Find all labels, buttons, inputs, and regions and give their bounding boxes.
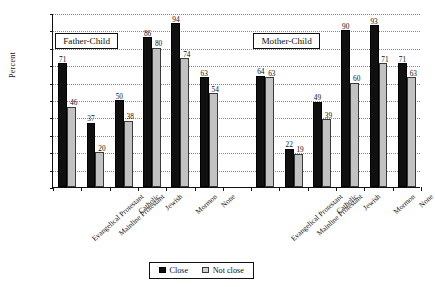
x-tick-mark <box>110 187 111 191</box>
bar-value-label: 50 <box>116 93 123 101</box>
gridline <box>53 14 420 15</box>
bar-group: 9060 <box>336 30 364 187</box>
x-tick-mark <box>195 187 196 191</box>
bar-close: 90 <box>341 30 350 187</box>
bar-group: 8680 <box>138 37 166 187</box>
legend-item-not-close: Not close <box>202 266 244 275</box>
panel-title-father-child: Father-Child <box>55 33 118 49</box>
bar-not-close: 74 <box>180 58 189 187</box>
bar-close: 64 <box>256 76 265 187</box>
bar-not-close: 80 <box>152 48 161 187</box>
x-axis-label: Mormon <box>391 192 416 216</box>
bar-value-label: 64 <box>257 68 264 76</box>
bar-group: 7146 <box>53 63 81 187</box>
bar-value-label: 63 <box>268 70 275 78</box>
bar-value-label: 90 <box>342 23 349 31</box>
bar-close: 71 <box>398 63 407 187</box>
x-tick-mark <box>336 187 337 191</box>
x-axis-label: None <box>417 192 435 209</box>
legend-item-close: Close <box>159 266 188 275</box>
x-tick-mark <box>53 187 54 191</box>
bar-close: 86 <box>143 37 152 187</box>
x-tick-mark <box>279 187 280 191</box>
bar-not-close: 46 <box>67 107 76 187</box>
x-tick-mark <box>251 187 252 191</box>
legend-swatch-not-close-icon <box>202 267 209 274</box>
x-tick-mark <box>364 187 365 191</box>
bar-not-close: 39 <box>322 119 331 187</box>
x-axis-label: None <box>219 192 237 209</box>
legend-label-not-close: Not close <box>213 266 244 275</box>
bar-not-close: 63 <box>407 77 416 187</box>
bar-value-label: 49 <box>314 94 321 102</box>
x-tick-mark <box>81 187 82 191</box>
bar-value-label: 74 <box>183 51 190 59</box>
bar-close: 71 <box>58 63 67 187</box>
bar-group: 2219 <box>279 149 307 187</box>
bar-value-label: 60 <box>353 75 360 83</box>
bar-not-close: 38 <box>124 121 133 187</box>
bar-value-label: 93 <box>370 18 377 26</box>
bar-not-close: 71 <box>379 63 388 187</box>
bar-value-label: 37 <box>87 115 94 123</box>
bar-value-label: 80 <box>155 40 162 48</box>
bar-value-label: 94 <box>172 16 179 24</box>
bar-not-close: 54 <box>209 93 218 187</box>
x-tick-mark <box>421 187 422 191</box>
bar-group: 6354 <box>195 77 223 187</box>
y-tick-mark <box>50 31 54 32</box>
legend-swatch-close-icon <box>159 267 166 274</box>
bar-value-label: 19 <box>296 146 303 154</box>
bar-not-close: 20 <box>95 152 104 187</box>
y-tick-mark <box>50 14 54 15</box>
bar-not-close: 60 <box>350 83 359 187</box>
x-axis-label: Jewish <box>362 192 383 212</box>
bar-close: 93 <box>370 25 379 187</box>
bar-value-label: 22 <box>285 141 292 149</box>
bar-group: 4939 <box>308 102 336 187</box>
bar-value-label: 71 <box>399 56 406 64</box>
bar-group: 9474 <box>166 23 194 187</box>
bar-value-label: 86 <box>144 30 151 38</box>
bar-value-label: 63 <box>201 70 208 78</box>
bar-close: 37 <box>87 123 96 187</box>
panel-title-mother-child: Mother-Child <box>253 33 319 49</box>
bar-value-label: 71 <box>59 56 66 64</box>
y-axis-label: Percent <box>8 52 17 78</box>
bar-value-label: 54 <box>212 86 219 94</box>
x-axis-label: Jewish <box>163 192 184 212</box>
x-tick-mark <box>308 187 309 191</box>
bar-group: 9371 <box>364 25 392 187</box>
bar-close: 63 <box>200 77 209 187</box>
x-tick-mark <box>223 187 224 191</box>
chart-legend: Close Not close <box>149 262 254 279</box>
bar-not-close: 63 <box>265 77 274 187</box>
x-tick-mark <box>138 187 139 191</box>
bar-value-label: 39 <box>325 112 332 120</box>
bar-group: 6463 <box>251 76 279 187</box>
bar-group: 5038 <box>110 100 138 187</box>
bar-not-close: 19 <box>294 154 303 187</box>
y-tick-mark <box>50 49 54 50</box>
bar-value-label: 46 <box>70 99 77 107</box>
bar-value-label: 63 <box>410 70 417 78</box>
bar-value-label: 20 <box>98 145 105 153</box>
x-tick-mark <box>166 187 167 191</box>
bar-close: 49 <box>313 102 322 187</box>
bar-value-label: 38 <box>127 113 134 121</box>
x-axis-label: Mormon <box>193 192 218 216</box>
legend-label-close: Close <box>170 266 189 275</box>
bar-group: 3720 <box>81 123 109 187</box>
bar-value-label: 71 <box>381 56 388 64</box>
bar-close: 50 <box>115 100 124 187</box>
bar-close: 22 <box>285 149 294 187</box>
bar-close: 94 <box>171 23 180 187</box>
x-tick-mark <box>393 187 394 191</box>
plot-area: 0102030405060708090100 71463720503886809… <box>52 14 420 188</box>
bar-group: 7163 <box>393 63 421 187</box>
